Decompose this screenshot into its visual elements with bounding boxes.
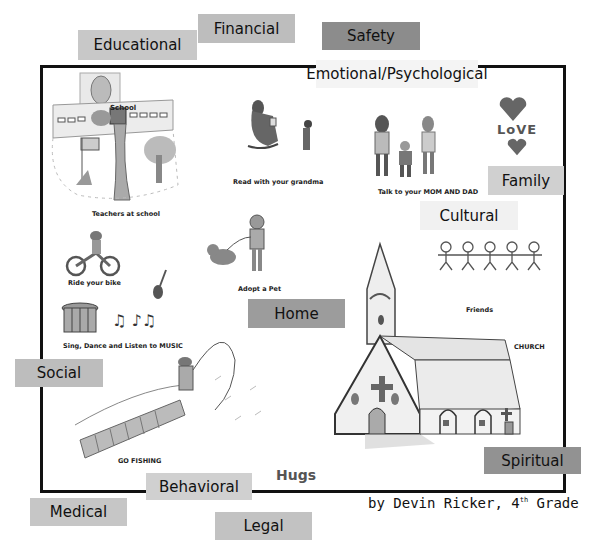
music-drum-icon: ♫ ♪♫ (60, 300, 170, 345)
school-sign-caption: School (110, 104, 136, 112)
category-label-legal: Legal (215, 512, 312, 540)
pet-owner-icon (205, 212, 275, 277)
heart-icon (498, 96, 528, 122)
category-label-medical: Medical (30, 498, 127, 526)
love-caption: LoVE (497, 122, 537, 137)
family-parents-icon (370, 112, 450, 182)
grandma-caption: Read with your grandma (233, 178, 323, 186)
church-icon (325, 244, 535, 449)
svg-text:♫ ♪♫: ♫ ♪♫ (112, 311, 156, 330)
category-label-spiritual: Spiritual (484, 447, 581, 474)
category-label-educational: Educational (78, 30, 197, 60)
category-label-emotional: Emotional/Psychological (316, 60, 478, 88)
school-drawing-icon (48, 70, 188, 210)
bike-icon (66, 228, 121, 278)
grandma-reading-icon (248, 96, 318, 156)
artist-credit: by Devin Ricker, 4th Grade (368, 495, 579, 511)
category-label-financial: Financial (198, 14, 295, 43)
hugs-caption: Hugs (276, 467, 316, 483)
category-label-safety: Safety (322, 22, 420, 50)
category-label-family: Family (488, 166, 564, 195)
heart-icon (506, 138, 528, 156)
category-label-behavioral: Behavioral (146, 473, 252, 500)
pet-caption: Adopt a Pet (238, 285, 281, 293)
fishing-caption: GO FISHING (118, 457, 161, 465)
bike-caption: Ride your bike (68, 279, 121, 287)
teachers-caption: Teachers at school (92, 210, 160, 218)
parents-caption: Talk to your MOM AND DAD (378, 188, 478, 196)
fishing-dock-icon (75, 340, 275, 460)
category-label-cultural: Cultural (420, 201, 518, 230)
